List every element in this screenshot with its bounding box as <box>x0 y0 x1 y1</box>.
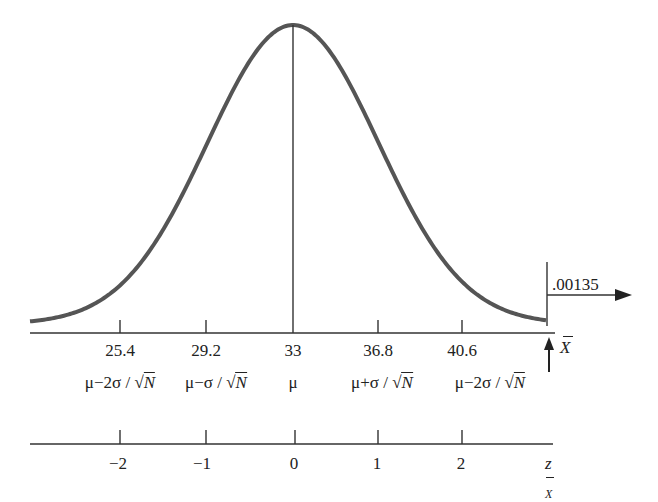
raw-tick-label: 29.2 <box>191 342 221 359</box>
normal-distribution-figure <box>0 0 658 502</box>
symbolic-expr: μ+σ / <box>351 373 392 392</box>
sqrt-sign: √ <box>134 373 143 392</box>
xbar-axis-label: X <box>560 336 573 356</box>
tail-arrow-head-icon <box>615 289 632 301</box>
overbar <box>546 477 554 478</box>
sqrt-radicand: N <box>144 372 155 392</box>
z-axis-letter: z <box>545 454 552 473</box>
z-tick-label: −2 <box>109 455 127 472</box>
z-axis-ticks <box>120 430 462 444</box>
sqrt-sign: √ <box>504 373 513 392</box>
symbolic-expr: μ−σ / <box>185 373 226 392</box>
z-axis-subscript: X <box>545 477 554 500</box>
raw-axis-ticks <box>120 320 462 333</box>
z-tick-label: 0 <box>290 455 299 472</box>
sqrt-radicand: N <box>236 372 247 392</box>
raw-tick-label: 40.6 <box>447 342 477 359</box>
tail-probability-label: .00135 <box>552 276 599 293</box>
z-tick-label: 1 <box>373 455 382 472</box>
z-axis-subscript-letter: X <box>545 487 552 501</box>
symbolic-tick-label: μ−σ / √N <box>185 374 247 391</box>
symbolic-expr: μ−2σ / <box>455 373 505 392</box>
sqrt-radicand: N <box>402 372 413 392</box>
sqrt-radicand: N <box>514 372 525 392</box>
symbolic-tick-label: μ−2σ / √N <box>455 374 525 391</box>
raw-tick-label: 33 <box>285 342 302 359</box>
xbar-axis-letter: X <box>560 338 570 357</box>
raw-tick-label: 36.8 <box>363 342 393 359</box>
z-tick-label: 2 <box>457 455 466 472</box>
z-axis-label: zX <box>545 455 554 498</box>
cutoff-pointer-head-icon <box>544 337 554 350</box>
overbar <box>563 336 573 337</box>
normal-curve <box>30 25 546 321</box>
symbolic-tick-label: μ+σ / √N <box>351 374 413 391</box>
symbolic-expr: μ−2σ / <box>85 373 135 392</box>
symbolic-expr: μ <box>288 373 297 392</box>
symbolic-tick-label: μ <box>288 374 297 391</box>
z-tick-label: −1 <box>193 455 211 472</box>
symbolic-tick-label: μ−2σ / √N <box>85 374 155 391</box>
raw-tick-label: 25.4 <box>105 342 135 359</box>
